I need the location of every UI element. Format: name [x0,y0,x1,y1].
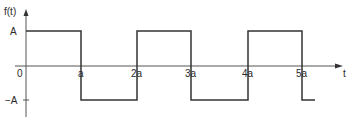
origin-label: 0 [17,68,23,79]
square-wave-diagram: f(t) A −A 0 a 2a 3a 4a 5a t [0,0,357,123]
y-axis-arrow-icon [24,9,29,16]
low-level-label: −A [5,95,18,106]
tick-label-3a: 3a [185,68,197,79]
tick-label-a: a [78,68,84,79]
tick-label-4a: 4a [242,68,254,79]
x-axis-label: t [343,68,346,79]
high-level-label: A [10,26,17,37]
y-axis-label: f(t) [4,6,16,17]
tick-label-5a: 5a [296,68,308,79]
x-axis-arrow-icon [335,64,343,69]
tick-label-2a: 2a [131,68,143,79]
